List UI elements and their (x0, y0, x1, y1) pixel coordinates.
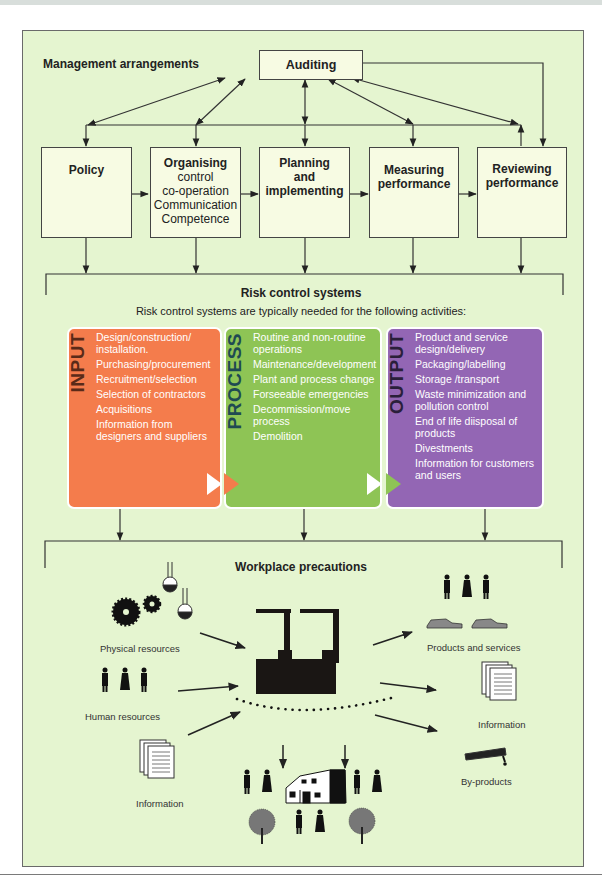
by-products-caption: By-products (461, 776, 512, 787)
top-strip (0, 0, 602, 5)
list-item: Selection of contractors (96, 388, 218, 400)
reviewing-title-line: Reviewing (478, 162, 566, 176)
list-item: Plant and process change (253, 373, 378, 385)
workplace-precautions-title: Workplace precautions (0, 560, 602, 574)
process-label: PROCESS (229, 333, 241, 429)
input-label: INPUT (72, 333, 84, 393)
list-item: Acquisitions (96, 403, 218, 415)
output-panel: OUTPUT Product and service design/delive… (386, 327, 544, 509)
planning-box: Planning and implementing (259, 147, 350, 238)
organising-title: Organising (151, 156, 240, 170)
output-list: Product and service design/delivery Pack… (415, 331, 540, 484)
list-item: Design/construction/ installation. (96, 331, 218, 355)
output-arrow-in (386, 473, 401, 495)
output-label: OUTPUT (391, 333, 403, 414)
organising-line: control (151, 170, 240, 184)
process-panel: PROCESS Routine and non-routine operatio… (224, 327, 382, 509)
physical-resources-caption: Physical resources (100, 643, 180, 654)
list-item: Maintenance/development (253, 358, 378, 370)
list-item: Divestments (415, 442, 540, 454)
auditing-label: Auditing (260, 58, 362, 72)
process-arrow-in (224, 473, 239, 495)
list-item: Storage /transport (415, 373, 540, 385)
policy-title: Policy (42, 163, 131, 177)
policy-box: Policy (41, 147, 132, 238)
organising-box: Organising control co-operation Communic… (150, 147, 241, 238)
process-list: Routine and non-routine operations Maint… (253, 331, 378, 445)
list-item: End of life diisposal of products (415, 415, 540, 439)
list-item: Demolition (253, 430, 378, 442)
list-item: Recruitment/selection (96, 373, 218, 385)
list-item: Packaging/labelling (415, 358, 540, 370)
list-item: Information from designers and suppliers (96, 418, 218, 442)
risk-control-title: Risk control systems (0, 286, 602, 300)
process-arrow-notch (367, 473, 382, 495)
reviewing-box: Reviewing performance (477, 147, 567, 238)
measuring-box: Measuring performance (369, 147, 459, 238)
input-arrow-notch (207, 473, 222, 495)
list-item: Purchasing/procurement (96, 358, 218, 370)
information-input-caption: Information (136, 798, 184, 809)
list-item: Forseeable emergencies (253, 388, 378, 400)
input-list: Design/construction/ installation. Purch… (96, 331, 218, 445)
input-panel: INPUT Design/construction/ installation.… (67, 327, 222, 509)
list-item: Routine and non-routine operations (253, 331, 378, 355)
measuring-title-line: Measuring (370, 163, 458, 177)
planning-title-line: implementing (260, 184, 349, 198)
list-item: Information for customers and users (415, 457, 540, 481)
list-item: Product and service design/delivery (415, 331, 540, 355)
organising-line: co-operation (151, 184, 240, 198)
risk-control-subtitle: Risk control systems are typically neede… (0, 305, 602, 317)
planning-title-line: Planning (260, 156, 349, 170)
products-services-caption: Products and services (427, 642, 520, 653)
organising-line: Competence (151, 212, 240, 226)
reviewing-title-line: performance (478, 176, 566, 190)
planning-title-line: and (260, 170, 349, 184)
measuring-title-line: performance (370, 177, 458, 191)
organising-line: Communication (151, 198, 240, 212)
list-item: Waste minimization and pollution control (415, 388, 540, 412)
information-output-caption: Information (478, 719, 526, 730)
auditing-box: Auditing (259, 50, 363, 80)
human-resources-caption: Human resources (85, 711, 160, 722)
management-arrangements-title: Management arrangements (43, 57, 199, 71)
list-item: Decommission/move process (253, 403, 378, 427)
bottom-rule (0, 874, 602, 875)
